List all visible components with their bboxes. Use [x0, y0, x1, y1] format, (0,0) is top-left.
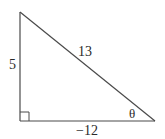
triangle-svg: 5 13 −12 θ [0, 0, 165, 139]
right-angle-marker-icon [20, 112, 29, 121]
triangle-diagram: 5 13 −12 θ [0, 0, 165, 139]
hypotenuse-label: 13 [78, 44, 92, 59]
angle-theta-label: θ [129, 106, 135, 121]
horizontal-leg-label: −12 [76, 123, 98, 138]
hypotenuse [20, 12, 155, 121]
vertical-leg-label: 5 [9, 57, 16, 72]
